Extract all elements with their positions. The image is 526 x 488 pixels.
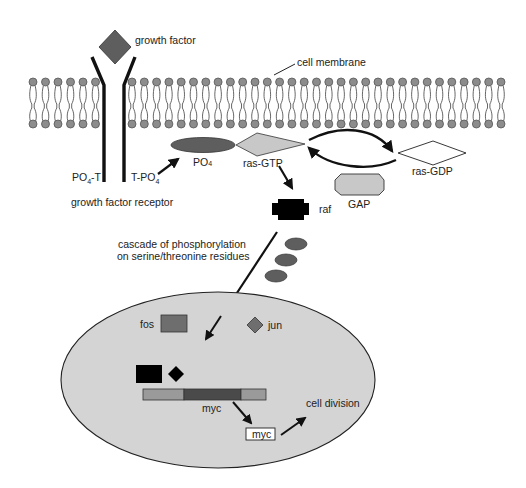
raf-kinase xyxy=(272,199,309,220)
myc-gene-flank-left xyxy=(143,389,184,400)
nucleus-ellipse xyxy=(61,292,375,468)
myc-gene-label: myc xyxy=(202,402,221,414)
jun-label: jun xyxy=(267,319,282,331)
phosphate-ellipse-2 xyxy=(275,254,297,266)
po4-transfer-arrow xyxy=(158,159,178,174)
cytoplasmic-cascade: PO4 ras-GTP ras-GDP GAP raf cascade of p… xyxy=(117,130,466,305)
membrane-leader-line xyxy=(274,64,295,75)
receptor-left-chain xyxy=(92,57,104,182)
cascade-label-line1: cascade of phosphorylation xyxy=(118,238,246,250)
ras-gtp-diamond xyxy=(236,133,305,156)
growth-factor-ligand xyxy=(99,30,131,64)
ras-gdp-diamond xyxy=(398,141,466,165)
gap-label: GAP xyxy=(348,198,370,210)
nucleus: fos jun myc myc cell division xyxy=(61,292,375,468)
cell-membrane-label: cell membrane xyxy=(297,56,366,68)
phosphate-ellipse-3 xyxy=(265,270,287,282)
ras-to-raf-arrow xyxy=(279,166,292,188)
growth-factor-receptor: growth factor PO4-T T-PO4 growth factor … xyxy=(71,30,196,208)
raf-label: raf xyxy=(319,203,331,215)
ras-gdp-to-gtp-arrow xyxy=(309,148,396,167)
membrane-lipids-left xyxy=(29,78,100,128)
receptor-right-chain xyxy=(124,57,135,182)
cell-division-label: cell division xyxy=(306,397,360,409)
growth-factor-receptor-label: growth factor receptor xyxy=(71,196,174,208)
signaling-diagram: cell membrane growth factor PO4-T T-PO4 … xyxy=(0,0,526,488)
myc-gene-flank-right xyxy=(241,389,266,400)
gap-protein xyxy=(335,174,384,195)
fos-protein xyxy=(161,315,187,332)
myc-protein-label: myc xyxy=(252,428,271,440)
cell-membrane: cell membrane xyxy=(29,56,505,128)
fos-jun-complex-block xyxy=(136,365,162,383)
po4-label: PO4 xyxy=(193,156,212,168)
fos-label: fos xyxy=(140,318,154,330)
growth-factor-label: growth factor xyxy=(135,34,196,46)
ras-gtp-label: ras-GTP xyxy=(243,157,283,169)
cascade-label-line2: on serine/threonine residues xyxy=(117,250,250,262)
ras-gtp-to-gdp-arrow xyxy=(309,130,392,151)
diagram-canvas: cell membrane growth factor PO4-T T-PO4 … xyxy=(0,0,526,488)
membrane-lipids-right xyxy=(128,78,505,128)
ras-gdp-label: ras-GDP xyxy=(412,165,453,177)
right-phosphotyrosine-label: T-PO4 xyxy=(131,171,160,185)
phosphate-ellipse-1 xyxy=(285,238,307,250)
left-phosphotyrosine-label: PO4-T xyxy=(72,171,102,185)
po4-ellipse xyxy=(171,138,235,153)
myc-gene-coding xyxy=(184,389,241,400)
